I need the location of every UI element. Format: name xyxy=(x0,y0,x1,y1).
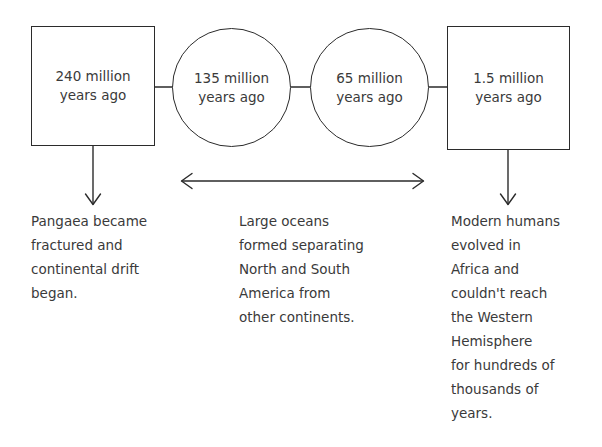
span-arrow-head-right xyxy=(413,174,424,189)
node-label-line1: 240 million xyxy=(55,67,130,86)
caption-pangaea: Pangaea became fractured and continental… xyxy=(31,209,216,305)
node-label-line2: years ago xyxy=(60,86,127,105)
timeline-node-65-million[interactable]: 65 million years ago xyxy=(310,28,429,147)
caption-modern-humans: Modern humans evolved in Africa and coul… xyxy=(451,209,601,425)
span-arrow-head-left xyxy=(182,174,193,189)
timeline-node-1-5-million[interactable]: 1.5 million years ago xyxy=(447,26,570,150)
caption-large-oceans: Large oceans formed separating North and… xyxy=(239,209,439,329)
down-arrow-right-head xyxy=(501,194,516,205)
diagram-canvas: 240 million years ago 135 million years … xyxy=(0,0,602,447)
node-label-line2: years ago xyxy=(475,88,542,107)
node-label-line1: 1.5 million xyxy=(473,69,544,88)
timeline-node-135-million[interactable]: 135 million years ago xyxy=(172,28,291,147)
timeline-node-240-million[interactable]: 240 million years ago xyxy=(31,26,155,146)
down-arrow-left-head xyxy=(86,194,101,205)
node-label-line1: 65 million xyxy=(336,69,402,88)
node-label-line1: 135 million xyxy=(194,69,269,88)
node-label-line2: years ago xyxy=(198,88,265,107)
node-label-line2: years ago xyxy=(336,88,403,107)
